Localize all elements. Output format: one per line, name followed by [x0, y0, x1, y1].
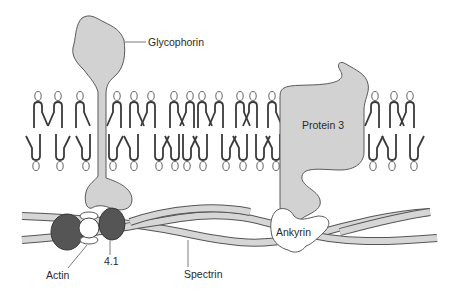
actin-complex [51, 208, 125, 250]
glycophorin-protein [73, 16, 132, 210]
lipid-bottom [369, 134, 383, 171]
lipid-top [209, 92, 223, 129]
lipid-bottom [124, 134, 138, 171]
lipid-top [48, 92, 62, 129]
actin-label: Actin [46, 270, 69, 281]
lipid-top [400, 92, 414, 129]
lipid-top [141, 92, 155, 129]
actin-monomer [79, 218, 99, 238]
band-4-1-right [99, 208, 125, 240]
lipid-bottom [56, 134, 70, 171]
lipid-bottom [193, 134, 207, 171]
lipid-top [180, 92, 194, 129]
lipid-bottom [266, 134, 280, 171]
lipid-bottom [26, 134, 40, 171]
lipid-top [107, 92, 121, 129]
lipid-top [365, 92, 379, 129]
lipid-top [236, 92, 250, 129]
ankyrin-label: Ankyrin [276, 227, 311, 238]
lipid-bottom [233, 134, 247, 171]
lipid-bottom [76, 134, 90, 171]
lipid-top [34, 92, 48, 129]
lipid-bottom [165, 134, 179, 171]
lipid-bottom [382, 134, 396, 171]
diagram-canvas [0, 0, 461, 294]
lipid-top [243, 92, 257, 129]
lipid-top [76, 92, 90, 129]
protein3-label: Protein 3 [302, 120, 344, 131]
lipid-bottom [410, 134, 424, 171]
glycophorin-label: Glycophorin [148, 37, 204, 48]
spectrin-label: Spectrin [184, 269, 223, 280]
band41-label: 4.1 [104, 256, 119, 267]
band-4-1-left [51, 214, 83, 250]
membrane-diagram: Glycophorin Protein 3 Ankyrin Actin 4.1 … [0, 0, 461, 294]
protein-3 [280, 62, 368, 228]
lipid-bottom [109, 134, 123, 171]
